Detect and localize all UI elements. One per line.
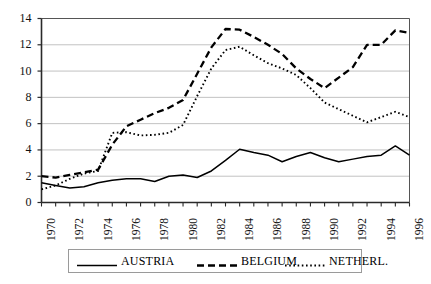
legend-swatch-dashed xyxy=(197,256,237,266)
y-tick-label: 0 xyxy=(8,196,32,208)
series-line-belgium xyxy=(42,29,410,178)
legend-swatch-solid xyxy=(77,256,117,266)
legend: AUSTRIABELGIUMNETHERL. xyxy=(68,249,362,273)
y-tick-label: 10 xyxy=(8,65,32,77)
series-line-netherl xyxy=(42,47,410,190)
x-tick-label: 1978 xyxy=(159,218,170,241)
x-tick-label: 1996 xyxy=(414,218,425,241)
legend-entry-austria: AUSTRIA xyxy=(77,250,174,272)
line-chart: 14121086420 1970197219741976197819801982… xyxy=(0,0,431,284)
legend-label: NETHERL. xyxy=(329,254,388,269)
y-tick-label: 14 xyxy=(8,12,32,24)
x-tick-label: 1976 xyxy=(131,218,142,241)
legend-entry-belgium: BELGIUM xyxy=(197,250,297,272)
y-tick-label: 6 xyxy=(8,117,32,129)
series-line-austria xyxy=(42,146,410,188)
plot-canvas xyxy=(0,0,431,284)
x-tick-label: 1970 xyxy=(46,218,57,241)
y-tick-label: 8 xyxy=(8,91,32,103)
plot-frame xyxy=(42,19,410,203)
x-tick-label: 1982 xyxy=(216,218,227,241)
x-tick-label: 1992 xyxy=(357,218,368,241)
x-tick-label: 1990 xyxy=(329,218,340,241)
x-tick-label: 1988 xyxy=(301,218,312,241)
legend-entry-netherl: NETHERL. xyxy=(285,250,388,272)
x-tick-label: 1972 xyxy=(74,218,85,241)
x-tick-label: 1984 xyxy=(244,218,255,241)
data-series-layer xyxy=(42,29,410,189)
gridlines xyxy=(42,19,410,177)
x-tick-label: 1986 xyxy=(272,218,283,241)
y-tick-label: 2 xyxy=(8,170,32,182)
legend-label: AUSTRIA xyxy=(121,254,174,269)
x-tick-label: 1994 xyxy=(386,218,397,241)
y-tick-label: 12 xyxy=(8,38,32,50)
legend-swatch-dotted xyxy=(285,256,325,266)
x-tick-label: 1974 xyxy=(103,218,114,241)
y-tick-label: 4 xyxy=(8,143,32,155)
x-tick-label: 1980 xyxy=(188,218,199,241)
